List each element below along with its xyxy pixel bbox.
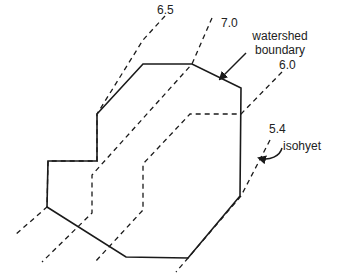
isohyet-label-7-0: 7.0 [221,16,238,30]
watershed-pointer-arrow-icon [220,53,246,79]
isohyet-annotation-label: isohyet [283,139,321,153]
watershed-label-line2: boundary [250,43,310,57]
watershed-label-line1: watershed [250,29,310,43]
watershed-boundary-label: watershed boundary [250,29,310,57]
isohyet-label-5-4: 5.4 [269,122,286,136]
isohyet-label-6-5: 6.5 [157,3,174,17]
isohyet-5-4-line [176,140,270,272]
isohyet-lines [15,16,282,272]
isohyet-7-0-line [42,18,212,262]
watershed-boundary [47,64,241,258]
isohyet-label-6-0: 6.0 [279,58,296,72]
isohyet-pointer-arrow-icon [259,148,282,159]
isohyet-6-0-line [95,72,282,262]
